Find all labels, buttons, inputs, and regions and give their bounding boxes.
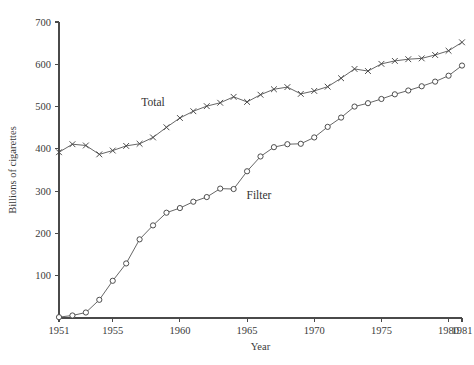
data-point-marker: [56, 315, 61, 320]
series-layer: [56, 39, 465, 319]
y-axis-ticks: 100200300400500600700: [35, 17, 59, 282]
data-point-marker: [83, 310, 88, 315]
data-point-marker: [150, 135, 156, 141]
data-point-marker: [258, 92, 264, 98]
data-point-marker: [432, 52, 438, 58]
data-point-marker: [204, 103, 210, 109]
axes: [59, 22, 462, 318]
y-tick-label: 300: [35, 186, 51, 197]
y-tick-label: 100: [35, 270, 51, 281]
data-point-marker: [96, 151, 102, 157]
x-tick-label: 1960: [169, 325, 190, 336]
data-point-marker: [285, 142, 290, 147]
data-point-marker: [231, 186, 236, 191]
data-point-marker: [352, 104, 357, 109]
y-tick-label: 500: [35, 101, 51, 112]
x-tick-label: 1965: [237, 325, 258, 336]
chart-figure: 100200300400500600700 195119551960196519…: [0, 0, 474, 365]
data-point-marker: [298, 141, 303, 146]
data-point-marker: [459, 63, 464, 68]
x-tick-label: 1955: [102, 325, 123, 336]
data-point-marker: [312, 135, 317, 140]
x-tick-label: 1951: [49, 325, 70, 336]
data-point-marker: [150, 223, 155, 228]
y-axis-title: Billions of cigarettes: [7, 126, 18, 213]
data-point-marker: [164, 210, 169, 215]
data-point-marker: [459, 39, 465, 45]
y-tick-label: 200: [35, 228, 51, 239]
x-tick-label: 1970: [304, 325, 325, 336]
data-point-marker: [338, 75, 344, 81]
data-point-marker: [110, 278, 115, 283]
y-tick-label: 700: [35, 17, 51, 28]
data-point-marker: [244, 169, 249, 174]
line-chart: 100200300400500600700 195119551960196519…: [0, 0, 474, 365]
data-point-marker: [190, 108, 196, 114]
y-tick-label: 600: [35, 59, 51, 70]
data-point-marker: [204, 194, 209, 199]
y-tick-label: 400: [35, 143, 51, 154]
data-point-marker: [97, 297, 102, 302]
data-point-marker: [258, 154, 263, 159]
data-point-marker: [325, 124, 330, 129]
x-axis-ticks: 19511955196019651970197519801981: [49, 318, 473, 336]
data-point-marker: [446, 48, 452, 54]
data-point-marker: [339, 115, 344, 120]
data-point-marker: [446, 73, 451, 78]
data-point-marker: [433, 79, 438, 84]
series-label-filter: Filter: [247, 189, 272, 201]
data-point-marker: [137, 237, 142, 242]
data-point-marker: [124, 261, 129, 266]
data-point-marker: [271, 145, 276, 150]
data-point-marker: [419, 84, 424, 89]
data-point-marker: [406, 88, 411, 93]
x-axis-title: Year: [251, 341, 271, 352]
data-point-marker: [325, 84, 331, 90]
series-polyline: [59, 42, 462, 154]
data-point-marker: [379, 96, 384, 101]
data-point-marker: [244, 99, 250, 105]
data-point-marker: [231, 94, 237, 100]
data-point-marker: [191, 199, 196, 204]
data-point-marker: [218, 186, 223, 191]
x-tick-label: 1975: [371, 325, 392, 336]
data-point-marker: [177, 115, 183, 121]
data-point-marker: [217, 100, 223, 106]
series-label-total: Total: [141, 96, 164, 108]
data-point-marker: [392, 92, 397, 97]
series-total: [56, 39, 465, 157]
data-point-marker: [177, 205, 182, 210]
x-tick-label: 1981: [452, 325, 473, 336]
data-point-marker: [70, 313, 75, 318]
data-point-marker: [365, 101, 370, 106]
data-point-marker: [164, 124, 170, 130]
data-point-marker: [110, 148, 116, 154]
